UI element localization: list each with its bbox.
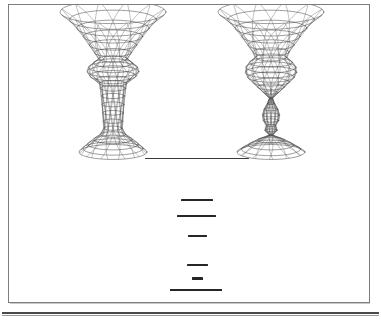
mesh-ring (100, 132, 125, 138)
mesh-ring (242, 30, 301, 43)
mesh-line (62, 9, 140, 147)
mesh-ring (248, 140, 293, 150)
mesh-ring (250, 58, 293, 67)
mesh-ring (77, 20, 150, 36)
page-bottom-rule (2, 312, 379, 314)
right-structure (218, 5, 324, 159)
mesh-line (87, 9, 165, 147)
mesh-ring (253, 48, 290, 56)
mesh-line (79, 5, 150, 151)
mesh-line (75, 5, 146, 151)
figure-canvas (9, 5, 369, 302)
mesh-ring (94, 49, 131, 57)
scanned-page (0, 0, 381, 320)
mesh-ring (237, 145, 305, 160)
page-bottom-rule-shadow (2, 315, 379, 316)
mesh-ring (102, 102, 124, 107)
mesh-ring (79, 145, 147, 160)
mesh-ring (103, 119, 123, 123)
wireframe-figure-svg (9, 5, 369, 302)
left-structure (60, 5, 166, 159)
